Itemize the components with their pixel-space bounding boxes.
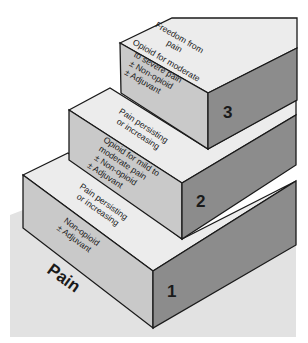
step-3-number: 3 [223,103,232,122]
step-1-number: 1 [167,282,176,301]
step-2-number: 2 [196,192,205,211]
analgesic-ladder-diagram: Freedom from pain Opioid for moderate to… [0,0,308,343]
